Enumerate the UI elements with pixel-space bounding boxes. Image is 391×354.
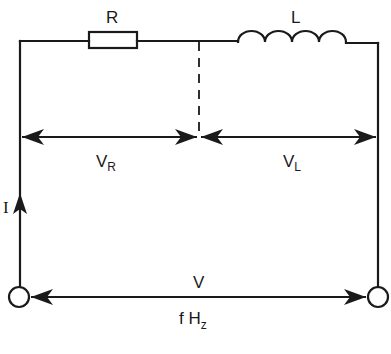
terminal-left (9, 287, 29, 307)
terminal-right (368, 287, 388, 307)
vl-label: VL (283, 152, 301, 174)
inductor-label: L (291, 8, 300, 27)
vr-label: VR (96, 152, 116, 174)
resistor-label: R (106, 8, 118, 27)
resistor-symbol (89, 32, 137, 48)
supply-voltage-label: V (193, 273, 205, 292)
inductor-symbol (238, 31, 346, 42)
rl-circuit-diagram: R L VR VL I V f Hz (0, 0, 391, 354)
current-label: I (3, 198, 9, 217)
frequency-label: f Hz (179, 309, 207, 332)
